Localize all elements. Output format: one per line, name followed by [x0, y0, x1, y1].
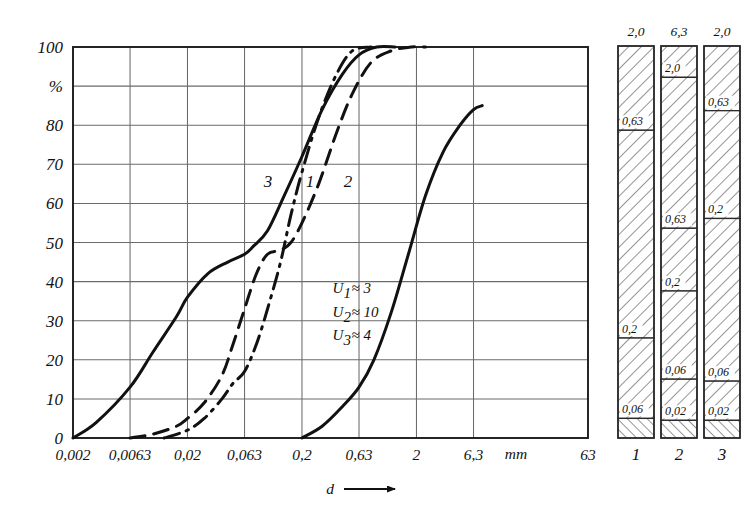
- x-axis-symbol: d: [326, 480, 334, 497]
- x-tick-label: 2: [413, 446, 421, 463]
- y-tick-label: 50: [46, 234, 64, 253]
- bar-segment-label: 0,02: [665, 404, 686, 418]
- annotation-value: ≈ 10: [352, 304, 379, 320]
- bar-segment-label: 0,63: [622, 114, 643, 128]
- bar-caption-label: 1: [632, 445, 641, 464]
- bar-top-label: 2,0: [714, 24, 731, 39]
- curve-label-3: 3: [263, 172, 273, 191]
- annotation-value: ≈ 4: [352, 327, 372, 343]
- x-tick-label: 0,063: [227, 446, 262, 463]
- bar-segment-label: 0,06: [665, 363, 686, 377]
- bar-segment-label: 0,2: [708, 202, 723, 216]
- x-tick-label: 6,3: [464, 446, 484, 463]
- bar-segment-label: 0,63: [708, 95, 729, 109]
- annotation-value: ≈ 3: [352, 280, 371, 296]
- bar-diagram-1: 2,00,630,20,061: [618, 24, 654, 464]
- bar-segment: [704, 420, 740, 438]
- bar-segment-label: 0,02: [708, 404, 729, 418]
- annotation-subscript: 2: [344, 309, 352, 325]
- bar-segment-label: 0,2: [622, 322, 637, 336]
- bar-segment-label: 0,06: [622, 402, 643, 416]
- x-axis-unit-label: mm: [505, 445, 527, 462]
- bar-diagram-2: 6,32,00,630,20,060,022: [661, 24, 697, 464]
- bar-diagram-3: 2,00,630,20,060,023: [704, 24, 740, 464]
- annotation-subscript: 1: [344, 285, 352, 301]
- plot-gridlines: [73, 47, 588, 438]
- plot-area: [73, 47, 588, 438]
- y-tick-label: %: [49, 77, 63, 96]
- annotation-uniformity-2: U2≈ 10: [333, 304, 379, 325]
- bar-segment: [618, 130, 654, 338]
- x-tick-label: 0,002: [56, 446, 91, 463]
- curve-label-1: 1: [306, 172, 315, 191]
- bar-diagrams-group: 2,00,630,20,0616,32,00,630,20,060,0222,0…: [618, 24, 740, 464]
- y-tick-label: 30: [45, 312, 64, 331]
- curve-label-2: 2: [344, 172, 353, 191]
- y-tick-label: 10: [46, 390, 64, 409]
- y-tick-label: 100: [38, 38, 64, 57]
- x-axis-arrow-label: d: [326, 480, 395, 497]
- x-tick-label: 0,63: [345, 446, 372, 463]
- y-tick-label: 80: [46, 116, 64, 135]
- grain-size-figure: 01020304050607080%100 0,0020,00630,020,0…: [0, 0, 753, 525]
- x-tick-label: 0,02: [174, 446, 201, 463]
- annotation-uniformity-3: U3≈ 4: [333, 327, 372, 348]
- y-tick-label: 60: [46, 194, 64, 213]
- annotation-uniformity-1: U1≈ 3: [333, 280, 371, 301]
- bar-top-label: 6,3: [671, 24, 688, 39]
- x-tick-label: 63: [580, 446, 596, 463]
- bar-segment: [704, 218, 740, 381]
- bar-segment-label: 2,0: [665, 61, 680, 75]
- x-tick-label: 0,2: [292, 446, 312, 463]
- y-tick-label: 70: [46, 155, 64, 174]
- bar-caption-label: 3: [717, 445, 727, 464]
- bar-segment-label: 0,2: [665, 275, 680, 289]
- figure-page: 01020304050607080%100 0,0020,00630,020,0…: [0, 0, 753, 525]
- bar-segment: [618, 418, 654, 438]
- annotation-group: U1≈ 3U2≈ 10U3≈ 4: [333, 280, 379, 348]
- bar-top-label: 2,0: [628, 24, 645, 39]
- y-tick-label: 20: [46, 351, 64, 370]
- y-tick-label: 40: [46, 273, 64, 292]
- annotation-subscript: 3: [343, 332, 352, 348]
- y-axis-tick-labels: 01020304050607080%100: [38, 38, 64, 448]
- bar-caption-label: 2: [675, 445, 684, 464]
- bar-segment: [661, 77, 697, 228]
- bar-segment-label: 0,06: [708, 365, 729, 379]
- bar-segment: [661, 420, 697, 438]
- x-tick-label: 0,0063: [109, 446, 152, 463]
- curve-labels-group: 312: [263, 172, 353, 191]
- bar-segment-label: 0,63: [665, 212, 686, 226]
